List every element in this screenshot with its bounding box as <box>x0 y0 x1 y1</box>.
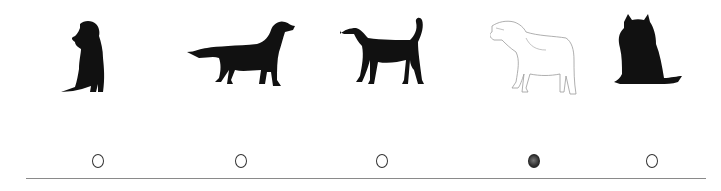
option-4 <box>490 0 580 191</box>
answer-bubble-5[interactable] <box>646 154 658 168</box>
standing-retriever-icon <box>185 8 305 103</box>
answer-bubble-3[interactable] <box>376 154 388 168</box>
option-5 <box>608 0 698 191</box>
option-1 <box>48 0 148 191</box>
answer-bubble-2[interactable] <box>235 154 247 168</box>
option-2 <box>185 0 305 191</box>
answer-bubble-1[interactable] <box>92 154 104 168</box>
option-3 <box>338 0 428 191</box>
sitting-wolf-dog-icon <box>608 8 698 103</box>
standing-hound-icon <box>338 8 428 103</box>
bottom-rule <box>26 178 706 179</box>
sitting-labrador-icon <box>48 8 148 103</box>
answer-bubble-4-selected[interactable] <box>528 154 540 168</box>
barking-dog-outline-icon <box>490 8 580 103</box>
